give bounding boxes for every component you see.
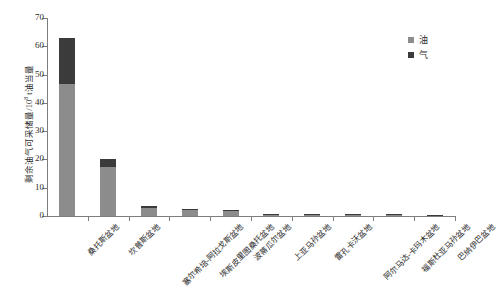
x-tick-mark <box>251 216 252 221</box>
y-axis-title-prefix: 剩余油气可采储量/10 <box>24 100 34 183</box>
bar-segment-oil <box>59 84 75 216</box>
bar-segment-oil <box>386 215 402 216</box>
bar-segment-oil <box>182 210 198 217</box>
bar-group <box>223 210 239 216</box>
bar-segment-gas <box>100 159 116 167</box>
bar-group <box>141 206 157 216</box>
x-tick-label: 坎普斯盆地 <box>126 221 162 257</box>
bar-group <box>427 215 443 216</box>
y-axis-title: 剩余油气可采储量/108 t油当量 <box>22 34 34 214</box>
x-tick-mark <box>373 216 374 221</box>
y-tick-label: 40 <box>35 97 44 108</box>
y-tick-label: 0 <box>40 210 45 221</box>
bar-segment-oil <box>345 215 361 216</box>
x-tick-label: 桑托斯盆地 <box>85 221 121 257</box>
bar-group <box>100 159 116 216</box>
bar-group <box>263 214 279 216</box>
x-tick-mark <box>414 216 415 221</box>
y-tick-label: 60 <box>35 40 44 51</box>
y-axis-title-suffix: t油当量 <box>24 65 34 97</box>
x-tick-mark <box>455 216 456 221</box>
x-tick-mark <box>129 216 130 221</box>
x-tick-mark <box>333 216 334 221</box>
y-tick-label: 70 <box>35 12 44 23</box>
bar-segment-gas <box>427 215 443 216</box>
bar-group <box>59 38 75 216</box>
y-axis-line <box>47 18 48 217</box>
bar-segment-oil <box>304 215 320 216</box>
bar-segment-gas <box>59 38 75 85</box>
bar-group <box>345 214 361 216</box>
legend-item-oil: 油 <box>408 33 428 46</box>
y-tick-label: 50 <box>35 69 44 80</box>
y-tick-label: 20 <box>35 153 44 164</box>
legend-label-gas: 气 <box>419 50 428 60</box>
legend: 油 气 <box>408 33 428 63</box>
x-tick-mark <box>210 216 211 221</box>
bar-group <box>304 214 320 216</box>
y-axis-title-exponent: 8 <box>23 97 29 100</box>
x-tick-mark <box>169 216 170 221</box>
x-tick-mark <box>88 216 89 221</box>
x-tick-label: 雷孔卡沃盆地 <box>332 221 374 263</box>
y-tick-label: 30 <box>35 125 44 136</box>
bar-segment-oil <box>223 211 239 216</box>
x-tick-mark <box>292 216 293 221</box>
bar-segment-oil <box>141 208 157 216</box>
bar-group <box>182 209 198 216</box>
legend-swatch-oil-icon <box>408 37 414 43</box>
bar-segment-oil <box>100 167 116 217</box>
plot-area: 010203040506070 <box>47 18 455 216</box>
legend-swatch-gas-icon <box>408 52 414 58</box>
bar-segment-oil <box>263 215 279 216</box>
x-tick-label: 上亚马孙盆地 <box>291 221 333 263</box>
legend-item-gas: 气 <box>408 48 428 61</box>
y-tick-label: 10 <box>35 182 44 193</box>
legend-label-oil: 油 <box>419 35 428 45</box>
bar-group <box>386 214 402 216</box>
